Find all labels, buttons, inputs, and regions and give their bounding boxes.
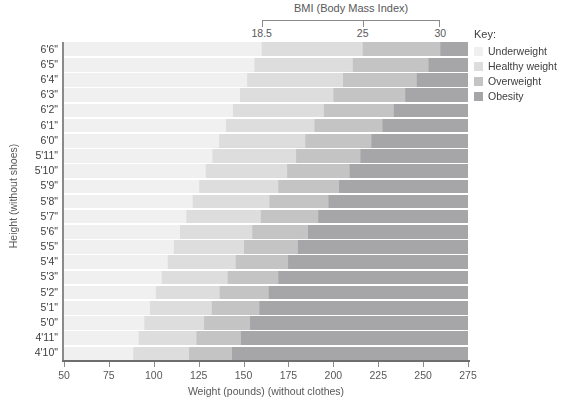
- y-tick-label: 6'3": [41, 89, 58, 100]
- y-tick-label: 5'11": [36, 150, 58, 161]
- legend: Key: UnderweightHealthy weightOverweight…: [474, 28, 574, 104]
- height-gridline: [64, 315, 468, 317]
- x-tick-label: 75: [103, 369, 115, 381]
- y-axis-title: Height (without shoes): [7, 111, 19, 281]
- x-tick-label: 225: [369, 369, 387, 381]
- y-tick-label: 5'2": [41, 287, 58, 298]
- x-tick-mark: [199, 362, 200, 367]
- x-tick-label: 125: [190, 369, 208, 381]
- legend-items: UnderweightHealthy weightOverweightObesi…: [474, 44, 574, 103]
- x-tick-label: 175: [280, 369, 298, 381]
- height-gridline: [64, 56, 468, 58]
- x-tick-mark: [244, 362, 245, 367]
- height-gridline: [64, 148, 468, 150]
- x-tick-mark: [378, 362, 379, 367]
- y-tick-label: 5'1": [41, 302, 58, 313]
- x-tick-mark: [109, 362, 110, 367]
- y-tick-label: 5'8": [41, 196, 58, 207]
- y-tick-label: 4'10": [35, 347, 58, 358]
- height-gridline: [64, 132, 468, 134]
- x-tick-label: 150: [235, 369, 253, 381]
- height-gridline: [64, 178, 468, 180]
- height-gridline: [64, 163, 468, 165]
- legend-swatch: [474, 62, 483, 71]
- x-tick-mark: [64, 362, 65, 367]
- bmi-chart-figure: BMI (Body Mass Index) 18.52530 6'6"6'5"6…: [0, 0, 577, 401]
- height-gridline: [64, 284, 468, 286]
- legend-swatch: [474, 47, 483, 56]
- bmi-tick-label: 25: [357, 27, 369, 39]
- x-tick-label: 200: [325, 369, 343, 381]
- legend-swatch: [474, 92, 483, 101]
- y-tick-label: 6'5": [41, 59, 58, 70]
- height-gridline: [64, 102, 468, 104]
- y-tick-label: 5'4": [41, 256, 58, 267]
- y-tick-label: 5'7": [41, 211, 58, 222]
- plot-area: [64, 42, 468, 361]
- y-tick-label: 4'11": [36, 332, 58, 343]
- bmi-scale-bracket: [262, 20, 441, 27]
- legend-label: Overweight: [488, 75, 541, 87]
- y-tick-label: 5'6": [41, 226, 58, 237]
- y-tick-label: 6'0": [41, 135, 58, 146]
- y-tick-label: 6'4": [41, 74, 58, 85]
- bmi-tick-mark: [439, 20, 440, 27]
- legend-label: Obesity: [488, 90, 524, 102]
- x-axis-line: [62, 360, 470, 362]
- legend-title: Key:: [474, 28, 574, 40]
- x-tick-label: 50: [58, 369, 70, 381]
- legend-item: Healthy weight: [474, 59, 574, 73]
- legend-label: Healthy weight: [488, 60, 557, 72]
- y-tick-label: 6'1": [41, 120, 58, 131]
- y-tick-label: 5'9": [41, 180, 58, 191]
- height-gridline: [64, 299, 468, 301]
- y-tick-label: 5'0": [41, 317, 58, 328]
- height-gridline: [64, 72, 468, 74]
- bmi-bands: [64, 42, 468, 361]
- x-tick-mark: [468, 362, 469, 367]
- x-tick-label: 100: [145, 369, 163, 381]
- x-tick-mark: [333, 362, 334, 367]
- bmi-tick-mark: [363, 20, 364, 27]
- bracket-line: [262, 20, 441, 21]
- height-gridline: [64, 254, 468, 256]
- bmi-scale-title: BMI (Body Mass Index): [191, 2, 511, 14]
- x-tick-label: 250: [414, 369, 432, 381]
- height-gridline: [64, 87, 468, 89]
- bmi-scale: BMI (Body Mass Index) 18.52530: [262, 2, 441, 40]
- height-gridline: [64, 269, 468, 271]
- x-tick-mark: [288, 362, 289, 367]
- bmi-tick-label: 18.5: [251, 27, 271, 39]
- x-tick-label: 275: [459, 369, 477, 381]
- bmi-tick-mark: [262, 20, 263, 27]
- legend-item: Obesity: [474, 89, 574, 103]
- height-gridline: [64, 208, 468, 210]
- legend-item: Underweight: [474, 44, 574, 58]
- x-tick-mark: [154, 362, 155, 367]
- y-tick-label: 5'10": [35, 165, 58, 176]
- height-gridline: [64, 239, 468, 241]
- x-tick-mark: [423, 362, 424, 367]
- height-gridline: [64, 330, 468, 332]
- legend-item: Overweight: [474, 74, 574, 88]
- height-gridline: [64, 345, 468, 347]
- x-axis-title: Weight (pounds) (without clothes): [64, 385, 468, 397]
- height-gridline: [64, 193, 468, 195]
- legend-label: Underweight: [488, 45, 547, 57]
- y-tick-label: 5'5": [41, 241, 58, 252]
- y-tick-label: 5'3": [41, 271, 58, 282]
- height-gridline: [64, 117, 468, 119]
- y-tick-label: 6'2": [41, 104, 58, 115]
- height-gridline: [64, 223, 468, 225]
- y-tick-label: 6'6": [41, 44, 58, 55]
- legend-swatch: [474, 77, 483, 86]
- y-axis-line: [62, 42, 64, 362]
- bmi-tick-label: 30: [435, 27, 447, 39]
